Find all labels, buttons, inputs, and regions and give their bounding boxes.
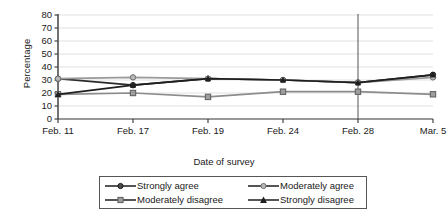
legend-item-strongly-disagree: Strongly disagree bbox=[247, 193, 354, 207]
legend-label-moderately-disagree: Moderately disagree bbox=[137, 195, 223, 205]
data-point-moderately-disagree-4 bbox=[355, 89, 360, 94]
legend-item-moderately-disagree: Moderately disagree bbox=[104, 193, 247, 207]
series-line-moderately-disagree bbox=[58, 92, 433, 97]
legend-key-moderately-disagree bbox=[104, 194, 137, 206]
legend-key-moderately-agree bbox=[247, 180, 280, 192]
legend-label-strongly-agree: Strongly agree bbox=[137, 181, 199, 191]
legend-key-strongly-agree bbox=[104, 180, 137, 192]
data-point-moderately-disagree-3 bbox=[280, 89, 285, 94]
legend-row-1: Strongly agree Moderately agree bbox=[104, 179, 362, 193]
data-point-moderately-disagree-2 bbox=[205, 94, 210, 99]
data-point-moderately-disagree-5 bbox=[430, 92, 435, 97]
legend-label-strongly-disagree: Strongly disagree bbox=[280, 195, 354, 205]
legend-label-moderately-agree: Moderately agree bbox=[280, 181, 354, 191]
survey-line-chart: Percentage Date of survey 01020304050607… bbox=[0, 0, 448, 217]
legend-key-strongly-disagree bbox=[247, 194, 280, 206]
legend-item-moderately-agree: Moderately agree bbox=[247, 179, 354, 193]
data-point-moderately-agree-0 bbox=[55, 76, 60, 81]
data-point-moderately-disagree-1 bbox=[130, 90, 135, 95]
chart-legend: Strongly agree Moderately agree Moderate… bbox=[99, 176, 367, 209]
legend-item-strongly-agree: Strongly agree bbox=[104, 179, 247, 193]
data-point-moderately-agree-1 bbox=[130, 75, 135, 80]
legend-row-2: Moderately disagree Strongly disagree bbox=[104, 193, 362, 207]
